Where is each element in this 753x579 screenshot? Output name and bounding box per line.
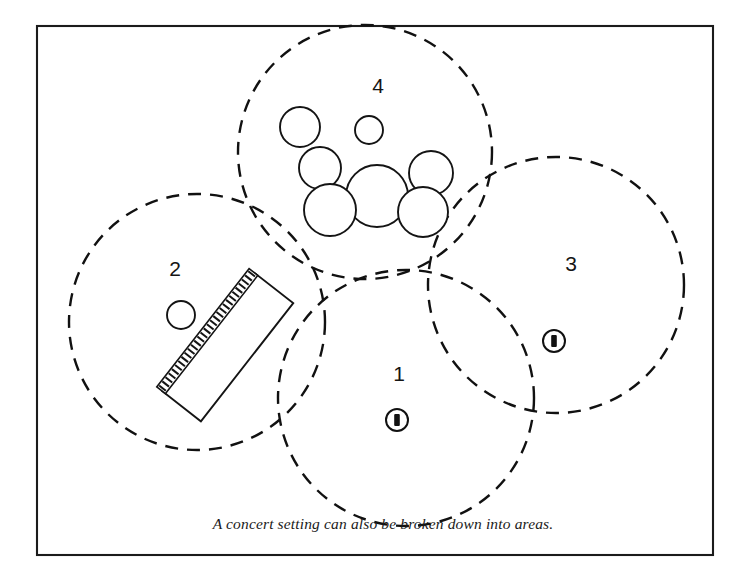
area-circle-1[interactable] [278, 270, 534, 526]
tom-left-upper-circle [299, 147, 341, 189]
microphone-marker-area-1 [386, 409, 408, 431]
microphone-body-area-1 [394, 414, 400, 426]
area-label-1: 1 [393, 362, 405, 385]
microphone-body-area-3 [551, 335, 557, 347]
concert-areas-diagram: 4 2 3 1 A concert setting can also be br… [0, 0, 753, 579]
keyboard [157, 269, 293, 422]
figure-caption: A concert setting can also be broken dow… [212, 515, 554, 532]
area-label-2: 2 [169, 257, 181, 280]
area-label-3: 3 [565, 252, 577, 275]
cymbal-left-upper-circle [280, 107, 320, 147]
monitor-circle [167, 301, 195, 329]
figure-frame [37, 26, 713, 555]
area-label-4: 4 [372, 74, 384, 97]
cymbal-center-small-circle [355, 116, 383, 144]
floor-tom-left-circle [304, 184, 356, 236]
microphone-marker-area-3 [543, 330, 565, 352]
drum-kit [280, 107, 453, 237]
figure-root: 4 2 3 1 A concert setting can also be br… [0, 0, 753, 579]
floor-tom-right-circle [398, 187, 448, 237]
area-circle-4[interactable] [238, 25, 492, 279]
